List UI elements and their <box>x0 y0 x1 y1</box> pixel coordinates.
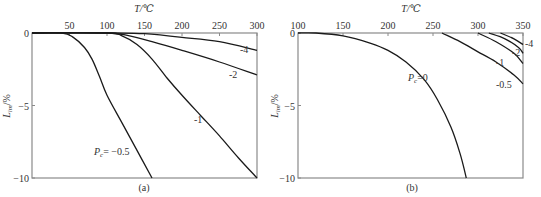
svg-text:−5: −5 <box>284 101 295 112</box>
curve-pc-0.5 <box>32 33 152 178</box>
svg-text:Lim/%: Lim/% <box>1 94 14 119</box>
svg-text:300: 300 <box>250 20 265 31</box>
svg-text:250: 250 <box>426 20 441 31</box>
svg-text:350: 350 <box>516 20 531 31</box>
curve-pc-1 <box>32 33 257 178</box>
svg-text:100: 100 <box>100 20 115 31</box>
svg-text:0: 0 <box>24 28 29 39</box>
curve-label-pc-minus-2-b: -2 <box>512 47 520 58</box>
svg-text:−10: −10 <box>13 173 29 184</box>
svg-text:−5: −5 <box>18 101 29 112</box>
svg-text:150: 150 <box>336 20 351 31</box>
svg-text:Pc=0: Pc=0 <box>407 72 428 85</box>
svg-text:200: 200 <box>175 20 190 31</box>
curve-label-pc-minus-1-b: -1 <box>496 57 504 68</box>
figure: T/℃ 50100150200250300 0−5−10 Lim/% -4 -2… <box>0 0 541 197</box>
x-axis-label-b: T/℃ <box>401 3 421 14</box>
y-axis-label-b: Lim/% <box>269 94 282 119</box>
svg-text:150: 150 <box>137 20 152 31</box>
plot-frame-b <box>298 33 523 178</box>
curve-label-pc-0-b: Pc=0 <box>407 72 428 85</box>
caption-a: (a) <box>138 182 149 194</box>
curve-pc-2 <box>32 33 257 75</box>
curves-a <box>32 33 257 178</box>
svg-text:Lim/%: Lim/% <box>269 94 282 119</box>
curve-pc-0 <box>298 33 466 178</box>
svg-text:200: 200 <box>381 20 396 31</box>
panel-a: T/℃ 50100150200250300 0−5−10 Lim/% -4 -2… <box>1 3 265 194</box>
svg-text:0: 0 <box>290 28 295 39</box>
curve-label-pc-minus-4-a: -4 <box>240 44 248 55</box>
svg-text:−10: −10 <box>279 173 295 184</box>
panel-b: T/℃ 100150200250300350 0−5−10 Lim/% -4 -… <box>269 3 533 194</box>
curve-label-pc-minus-2-a: -2 <box>229 69 237 80</box>
y-axis-label-a: Lim/% <box>1 94 14 119</box>
plot-frame-a <box>32 33 257 178</box>
caption-b: (b) <box>406 182 418 194</box>
curve-pc-0.5 <box>442 33 523 84</box>
svg-text:300: 300 <box>471 20 486 31</box>
svg-text:50: 50 <box>65 20 75 31</box>
svg-text:Pc= −0.5: Pc= −0.5 <box>93 146 130 159</box>
curve-label-pc-minus-4-b: -4 <box>525 38 533 49</box>
x-axis-label-a: T/℃ <box>134 3 154 14</box>
svg-text:250: 250 <box>212 20 227 31</box>
curve-label-pc-minus-0.5-b: -0.5 <box>496 79 512 90</box>
curves-b <box>298 33 523 178</box>
curve-label-pc-minus-0.5-a: Pc= −0.5 <box>93 146 130 159</box>
curve-label-pc-minus-1-a: -1 <box>194 114 202 125</box>
